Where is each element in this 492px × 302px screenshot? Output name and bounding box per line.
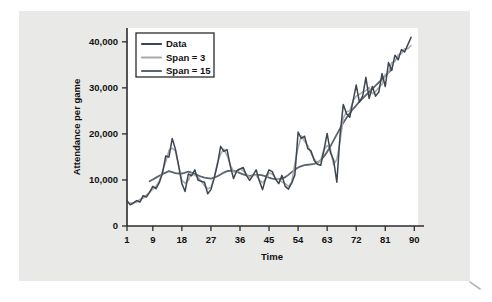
x-tick-label: 36 xyxy=(235,234,246,245)
legend-label: Span = 3 xyxy=(166,52,205,63)
y-tick-label: 20,000 xyxy=(89,128,118,139)
x-axis-tick-labels: 19182736455463728190 xyxy=(124,234,419,245)
figure-root: 010,00020,00030,00040,000 19182736455463… xyxy=(0,0,492,302)
x-tick-label: 81 xyxy=(380,234,391,245)
x-tick-label: 63 xyxy=(322,234,333,245)
y-tick-label: 40,000 xyxy=(89,36,118,47)
y-axis-tick-labels: 010,00020,00030,00040,000 xyxy=(89,36,118,231)
x-tick-label: 1 xyxy=(124,234,130,245)
x-axis-title: Time xyxy=(261,251,283,262)
y-tick-label: 0 xyxy=(113,220,118,231)
x-tick-label: 54 xyxy=(293,234,304,245)
y-tick-label: 10,000 xyxy=(89,174,118,185)
x-tick-label: 9 xyxy=(150,234,155,245)
x-tick-label: 18 xyxy=(177,234,188,245)
y-tick-label: 30,000 xyxy=(89,82,118,93)
chart-legend: DataSpan = 3Span = 15 xyxy=(136,33,214,77)
legend-label: Span = 15 xyxy=(166,65,211,76)
x-tick-label: 72 xyxy=(351,234,362,245)
x-tick-label: 27 xyxy=(206,234,217,245)
x-tick-label: 90 xyxy=(409,234,420,245)
y-axis-title: Attendance per game xyxy=(71,79,82,176)
legend-label: Data xyxy=(166,38,187,49)
attendance-line-chart: 010,00020,00030,00040,000 19182736455463… xyxy=(0,0,492,302)
x-tick-label: 45 xyxy=(264,234,275,245)
